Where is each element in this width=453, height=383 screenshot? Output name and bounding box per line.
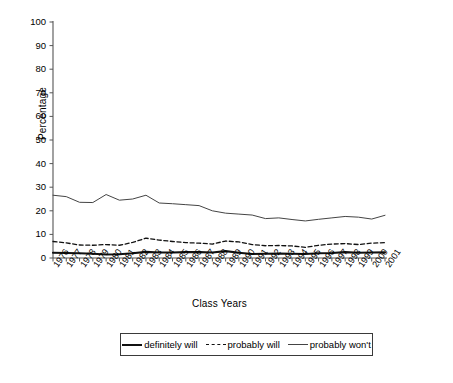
chart-legend: definitely will probably will probably w… xyxy=(120,333,373,356)
legend-label: probably won't xyxy=(310,339,371,350)
legend-label: probably will xyxy=(228,339,280,350)
legend-item-probably-wont[interactable]: probably won't xyxy=(284,339,375,350)
chart-figure: Percentage 0102030405060708090100 197619… xyxy=(0,0,453,383)
y-tick-label: 30 xyxy=(22,182,46,192)
y-tick-label: 0 xyxy=(22,253,46,263)
y-tick-label: 90 xyxy=(22,41,46,51)
legend-item-definitely-will[interactable]: definitely will xyxy=(118,339,201,350)
legend-item-probably-will[interactable]: probably will xyxy=(202,339,284,350)
y-tick-label: 40 xyxy=(22,159,46,169)
series-line xyxy=(53,238,385,247)
y-tick-label: 80 xyxy=(22,64,46,74)
legend-label: definitely will xyxy=(144,339,197,350)
x-axis-label: Class Years xyxy=(53,298,386,309)
plot-area xyxy=(0,0,453,383)
legend-swatch-solid-thin-icon xyxy=(288,344,308,345)
y-tick-label: 10 xyxy=(22,229,46,239)
legend-swatch-solid-thick-icon xyxy=(122,344,142,346)
y-tick-label: 100 xyxy=(22,17,46,27)
y-tick-label: 70 xyxy=(22,88,46,98)
legend-swatch-dashed-icon xyxy=(206,344,226,345)
y-tick-label: 20 xyxy=(22,206,46,216)
y-tick-label: 60 xyxy=(22,111,46,121)
y-tick-label: 50 xyxy=(22,135,46,145)
series-line xyxy=(53,195,385,221)
